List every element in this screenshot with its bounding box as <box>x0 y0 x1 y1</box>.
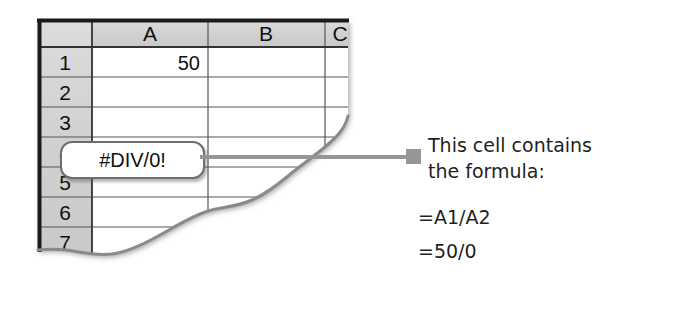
column-header-b[interactable]: B <box>259 22 273 45</box>
figure-canvas: A B C 1 2 3 4 5 6 7 50 <box>0 0 685 312</box>
row-header-1[interactable]: 1 <box>59 51 71 74</box>
annotation-block: This cell contains the formula: =A1/A2 =… <box>428 132 678 268</box>
leader-line <box>200 155 412 159</box>
row-header-3[interactable]: 3 <box>59 111 71 134</box>
row-header-6[interactable]: 6 <box>59 201 71 224</box>
annotation-line-1: This cell contains <box>428 132 678 158</box>
column-header-a[interactable]: A <box>143 22 157 45</box>
annotation-spacer <box>428 184 678 200</box>
div-zero-callout[interactable]: #DIV/0! <box>60 141 205 179</box>
annotation-line-2: the formula: <box>428 158 678 184</box>
annotation-formula-1: =A1/A2 <box>418 200 678 234</box>
row-header-2[interactable]: 2 <box>59 81 71 104</box>
callout-value: #DIV/0! <box>60 141 205 179</box>
annotation-formula-2: =50/0 <box>418 234 678 268</box>
cell-a1-value[interactable]: 50 <box>178 52 200 74</box>
square-marker-icon <box>406 149 421 164</box>
column-header-c[interactable]: C <box>332 22 347 45</box>
